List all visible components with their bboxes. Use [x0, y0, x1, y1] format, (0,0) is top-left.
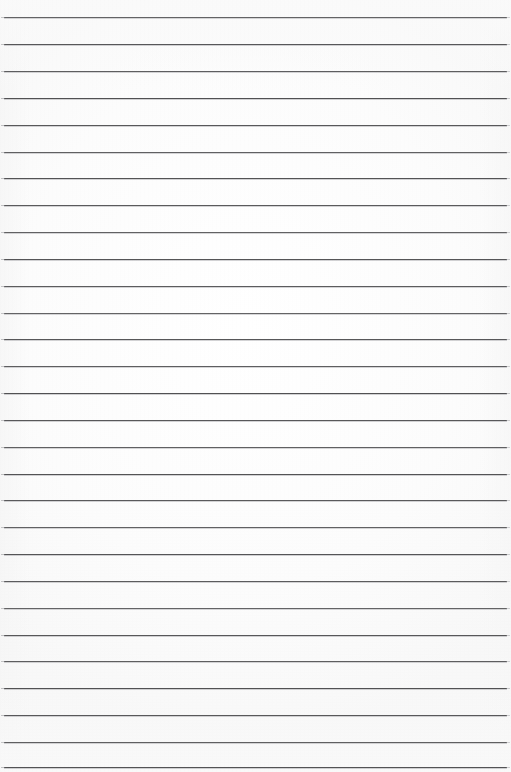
rule-line — [4, 715, 507, 716]
rule-line — [4, 581, 507, 582]
rule-line — [4, 767, 507, 768]
rule-line — [4, 366, 507, 367]
rule-line — [4, 71, 507, 72]
rule-line — [4, 286, 507, 287]
rule-line — [4, 44, 507, 45]
rule-line — [4, 688, 507, 689]
rule-line — [4, 635, 507, 636]
rule-line — [4, 420, 507, 421]
rule-line — [4, 259, 507, 260]
rule-line — [4, 178, 507, 179]
ruling-lines-layer — [0, 0, 511, 772]
rule-line — [4, 152, 507, 153]
rule-line — [4, 500, 507, 501]
rule-line — [4, 447, 507, 448]
rule-line — [4, 608, 507, 609]
scanned-page — [0, 0, 511, 772]
rule-line — [4, 17, 507, 18]
rule-line — [4, 339, 507, 340]
rule-line — [4, 313, 507, 314]
rule-line — [4, 393, 507, 394]
rule-line — [4, 98, 507, 99]
rule-line — [4, 661, 507, 662]
rule-line — [4, 125, 507, 126]
rule-line — [4, 474, 507, 475]
rule-line — [4, 742, 507, 743]
rule-line — [4, 232, 507, 233]
rule-line — [4, 527, 507, 528]
rule-line — [4, 205, 507, 206]
rule-line — [4, 554, 507, 555]
